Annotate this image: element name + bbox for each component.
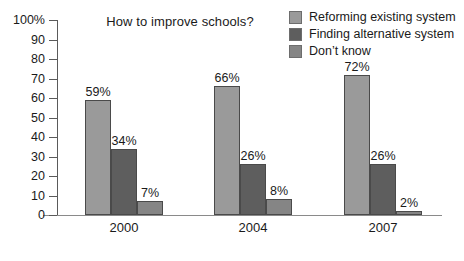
bar: 34%: [111, 149, 137, 215]
plot-area: 0102030405060708090100% 59%34%7%66%26%8%…: [57, 20, 442, 215]
bar-group: 59%34%7%: [85, 20, 163, 215]
bar: 59%: [85, 100, 111, 215]
x-axis-category-label: 2004: [239, 220, 268, 235]
bar: 72%: [344, 75, 370, 215]
bar-value-label: 8%: [270, 184, 288, 198]
y-axis-line: [57, 20, 58, 215]
bar-value-label: 26%: [370, 149, 395, 163]
x-axis-baseline: [43, 215, 442, 216]
bar-group: 72%26%2%: [344, 20, 422, 215]
y-axis-tick-label: 10: [31, 189, 45, 203]
y-axis-tick-label: 0: [38, 208, 45, 222]
y-axis-tick: [49, 59, 57, 60]
bar-value-label: 7%: [141, 186, 159, 200]
bar-value-label: 2%: [400, 196, 418, 210]
y-axis-tick: [49, 196, 57, 197]
bar: 2%: [396, 211, 422, 215]
y-axis-tick-label: 70: [31, 72, 45, 86]
bar-value-label: 72%: [344, 60, 369, 74]
y-axis-tick-label: 100%: [13, 13, 45, 27]
y-axis-tick-label: 50: [31, 111, 45, 125]
y-axis-tick: [49, 20, 57, 21]
bar-value-label: 66%: [214, 71, 239, 85]
y-axis-tick: [49, 40, 57, 41]
y-axis-tick: [49, 98, 57, 99]
bar: 26%: [240, 164, 266, 215]
bar-value-label: 34%: [111, 134, 136, 148]
y-axis-tick-label: 20: [31, 169, 45, 183]
y-axis-tick-label: 30: [31, 150, 45, 164]
bar-chart: How to improve schools? Reforming existi…: [0, 0, 464, 261]
y-axis-tick: [49, 137, 57, 138]
bar-group: 66%26%8%: [214, 20, 292, 215]
x-axis-category-label: 2007: [369, 220, 398, 235]
bar: 66%: [214, 86, 240, 215]
y-axis-tick: [49, 176, 57, 177]
y-axis-tick-label: 60: [31, 91, 45, 105]
x-axis-category-label: 2000: [110, 220, 139, 235]
bar-value-label: 26%: [240, 149, 265, 163]
y-axis-tick-label: 40: [31, 130, 45, 144]
y-axis-tick: [49, 157, 57, 158]
y-axis-tick-label: 90: [31, 33, 45, 47]
y-axis-tick-label: 80: [31, 52, 45, 66]
bar: 7%: [137, 201, 163, 215]
bar-value-label: 59%: [85, 85, 110, 99]
y-axis-tick: [49, 118, 57, 119]
y-axis-tick: [49, 79, 57, 80]
bar: 26%: [370, 164, 396, 215]
y-axis-tick: [49, 215, 57, 216]
bar: 8%: [266, 199, 292, 215]
